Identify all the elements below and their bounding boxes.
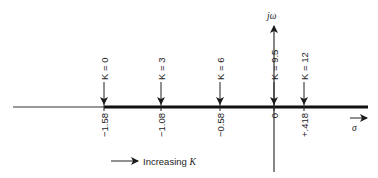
imag-axis-label: jω [265, 11, 277, 21]
gain-label: K = 6 [215, 58, 226, 80]
gain-label: K = 12 [299, 52, 310, 80]
gain-label: K = 3 [156, 58, 167, 80]
value-label: 0 [269, 113, 280, 118]
locus-point: K = 3−1.08 [156, 58, 167, 138]
legend-text: Increasing K [143, 156, 196, 167]
gain-label: K = 9.5 [269, 50, 280, 80]
root-locus-diagram: jω σ K = 0−1.58K = 3−1.08K = 6−0.58K = 9… [0, 0, 378, 178]
locus-point: K = 6−0.58 [215, 58, 226, 138]
gain-label: K = 0 [99, 58, 110, 80]
locus-point: K = 0−1.58 [99, 58, 110, 138]
value-label: −1.58 [99, 113, 110, 137]
value-label: +.418 [299, 113, 310, 137]
value-label: −0.58 [215, 113, 226, 137]
value-label: −1.08 [156, 113, 167, 137]
real-axis-label: σ [352, 123, 357, 133]
locus-point: K = 12+.418 [299, 52, 310, 137]
